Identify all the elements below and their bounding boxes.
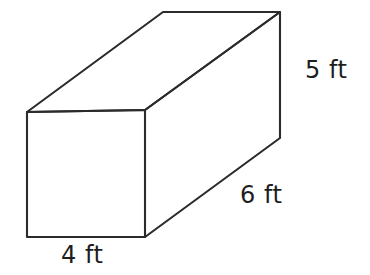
prism-diagram: 5 ft 6 ft 4 ft xyxy=(0,0,370,275)
depth-dimension-label: 6 ft xyxy=(240,183,282,207)
prism-svg xyxy=(0,0,370,275)
height-dimension-label: 5 ft xyxy=(305,58,347,82)
front-face xyxy=(27,110,145,237)
width-dimension-label: 4 ft xyxy=(61,243,103,267)
